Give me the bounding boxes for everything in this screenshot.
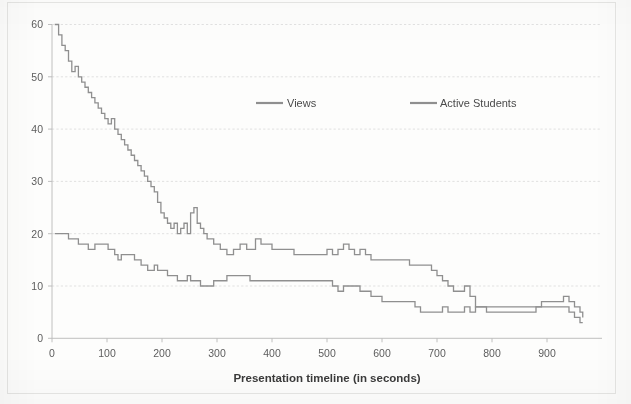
x-tick-label-400: 400: [263, 347, 281, 359]
legend-label-active-students: Active Students: [440, 97, 517, 109]
x-tickmarks: [52, 338, 547, 342]
x-tick-label-0: 0: [49, 347, 55, 359]
data-series-group: [55, 25, 583, 323]
y-tick-label-10: 10: [31, 280, 43, 292]
x-tick-label-100: 100: [98, 347, 116, 359]
y-tick-label-50: 50: [31, 71, 43, 83]
series-line-views: [55, 25, 583, 318]
x-tick-labels: 0 100 200 300 400 500 600 700 800 900: [49, 347, 556, 359]
chart-legend: Views Active Students: [256, 97, 517, 109]
x-axis-title: Presentation timeline (in seconds): [233, 372, 420, 384]
y-tick-label-60: 60: [31, 18, 43, 30]
x-tick-label-500: 500: [318, 347, 336, 359]
x-tick-label-800: 800: [483, 347, 501, 359]
x-tick-label-200: 200: [153, 347, 171, 359]
chart-figure: 60 50 40 30 20 10 0 0 100 200 300: [0, 0, 631, 404]
y-tick-label-0: 0: [37, 332, 43, 344]
y-tick-labels: 60 50 40 30 20 10 0: [31, 18, 43, 344]
x-tick-label-700: 700: [428, 347, 446, 359]
y-tick-label-20: 20: [31, 228, 43, 240]
y-tickmarks: [48, 25, 52, 339]
legend-label-views: Views: [287, 97, 317, 109]
x-tick-label-300: 300: [208, 347, 226, 359]
series-line-active-students: [55, 234, 583, 323]
x-tick-label-600: 600: [373, 347, 391, 359]
line-chart-plot: 60 50 40 30 20 10 0 0 100 200 300: [0, 0, 631, 404]
x-tick-label-900: 900: [538, 347, 556, 359]
y-tick-label-40: 40: [31, 123, 43, 135]
y-tick-label-30: 30: [31, 175, 43, 187]
